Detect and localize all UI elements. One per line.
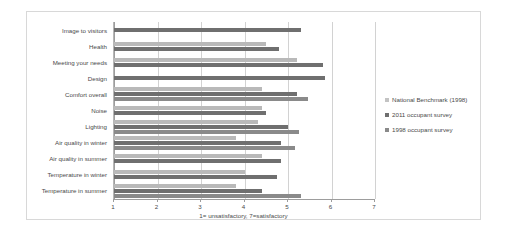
category-label: Comfort overall xyxy=(65,91,107,98)
bar xyxy=(114,184,236,188)
bar-group xyxy=(114,135,374,151)
bar xyxy=(114,76,325,80)
bar xyxy=(114,87,262,91)
category-label: Health xyxy=(89,43,107,50)
category-axis-labels: Image to visitorsHealthMeeting your need… xyxy=(27,22,111,199)
category-label: Temperature in winter xyxy=(48,171,108,178)
x-tick xyxy=(244,199,245,202)
bar xyxy=(114,130,299,134)
legend-label: National Benchmark (1998) xyxy=(392,96,467,103)
bar xyxy=(114,120,258,124)
category-label: Air quality in winter xyxy=(55,139,107,146)
bar xyxy=(114,111,266,115)
category-label: Image to visitors xyxy=(62,27,107,34)
category-label: Air quality in summer xyxy=(49,155,107,162)
bar xyxy=(114,106,262,110)
category-label: Meeting your needs xyxy=(53,59,107,66)
bar xyxy=(114,63,323,67)
bar xyxy=(114,92,297,96)
bar xyxy=(114,42,266,46)
gridline-7 xyxy=(375,22,376,199)
x-tick-label: 3 xyxy=(198,203,201,211)
bar-group xyxy=(114,22,374,38)
bar-group xyxy=(114,38,374,54)
x-tick xyxy=(331,199,332,202)
bar xyxy=(114,146,295,150)
bar xyxy=(114,175,277,179)
chart-legend: National Benchmark (1998)2011 occupant s… xyxy=(385,96,481,141)
x-tick-label: 4 xyxy=(242,203,245,211)
bar-groups xyxy=(114,22,374,199)
bar xyxy=(114,58,297,62)
bar-group xyxy=(114,70,374,86)
bar-group xyxy=(114,183,374,199)
bar-group xyxy=(114,119,374,135)
bar xyxy=(114,125,288,129)
legend-label: 1998 occupant survey xyxy=(392,126,453,133)
plot-area xyxy=(113,22,374,199)
legend-item[interactable]: 2011 occupant survey xyxy=(385,111,481,118)
bar xyxy=(114,136,236,140)
bar xyxy=(114,47,279,51)
bar xyxy=(114,28,301,32)
bar xyxy=(114,189,262,193)
legend-swatch-icon xyxy=(385,113,389,117)
bar xyxy=(114,154,262,158)
x-axis xyxy=(113,199,374,200)
bar-group xyxy=(114,151,374,167)
legend-item[interactable]: 1998 occupant survey xyxy=(385,126,481,133)
bar xyxy=(114,141,281,145)
x-axis-title: 1= unsatisfactory, 7=satisfactory xyxy=(113,212,374,219)
bar xyxy=(114,194,301,198)
x-tick-label: 5 xyxy=(285,203,288,211)
bar-group xyxy=(114,54,374,70)
bar xyxy=(114,170,245,174)
legend-item[interactable]: National Benchmark (1998) xyxy=(385,96,481,103)
x-tick xyxy=(200,199,201,202)
x-tick xyxy=(374,199,375,202)
category-label: Noise xyxy=(91,107,107,114)
bar-group xyxy=(114,102,374,118)
x-tick xyxy=(113,199,114,202)
bar-group xyxy=(114,86,374,102)
legend-swatch-icon xyxy=(385,128,389,132)
x-tick-label: 6 xyxy=(329,203,332,211)
x-tick xyxy=(287,199,288,202)
legend-swatch-icon xyxy=(385,98,389,102)
legend-label: 2011 occupant survey xyxy=(392,111,452,118)
x-tick-label: 7 xyxy=(372,203,375,211)
bar xyxy=(114,97,308,101)
category-label: Temperature in summer xyxy=(42,187,107,194)
x-tick xyxy=(157,199,158,202)
bar-group xyxy=(114,167,374,183)
bar xyxy=(114,159,281,163)
x-tick-label: 1 xyxy=(111,203,114,211)
category-label: Design xyxy=(88,75,107,82)
category-label: Lighting xyxy=(85,123,107,130)
x-tick-label: 2 xyxy=(155,203,158,211)
chart-container: Image to visitorsHealthMeeting your need… xyxy=(26,11,481,220)
